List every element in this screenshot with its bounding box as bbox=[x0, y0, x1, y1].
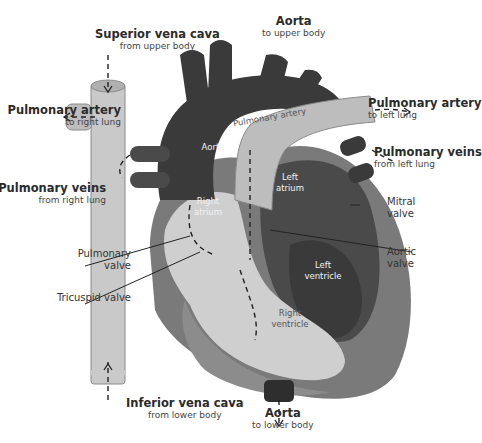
label-subtitle: to lower body bbox=[252, 420, 314, 430]
label-pulmonary-veins-right: Pulmonary veins from right lung bbox=[0, 182, 106, 206]
label-line1: Mitral bbox=[387, 196, 415, 208]
label-title: Superior vena cava bbox=[95, 28, 220, 41]
label-aortic-valve: Aortic valve bbox=[387, 246, 416, 269]
label-subtitle: to upper body bbox=[262, 28, 325, 38]
label-right-ventricle-2: ventricle bbox=[271, 319, 308, 329]
label-line2: valve bbox=[387, 208, 415, 220]
label-aorta-top: Aorta to upper body bbox=[262, 15, 325, 39]
vena-cava-tube bbox=[91, 84, 125, 384]
pulmonary-vein-right-2 bbox=[130, 172, 170, 188]
label-aorta-bottom: Aorta to lower body bbox=[252, 407, 314, 431]
label-line1: Tricuspid valve bbox=[57, 292, 131, 304]
label-title: Pulmonary veins bbox=[374, 146, 482, 159]
label-right-atrium-2: atrium bbox=[194, 207, 222, 217]
label-title: Aorta bbox=[252, 407, 314, 420]
pulmonary-vein-right-1 bbox=[130, 146, 170, 162]
label-line1: Pulmonary bbox=[78, 248, 131, 260]
label-title: Pulmonary veins bbox=[0, 182, 106, 195]
label-tricuspid-valve: Tricuspid valve bbox=[57, 292, 131, 304]
label-title: Pulmonary artery bbox=[8, 104, 121, 117]
label-title: Aorta bbox=[262, 15, 325, 28]
label-mitral-valve: Mitral valve bbox=[387, 196, 415, 219]
label-pulmonary-artery-left: Pulmonary artery to left lung bbox=[368, 97, 481, 121]
label-right-ventricle-1: Right bbox=[279, 308, 302, 318]
aorta-branch-1 bbox=[180, 50, 210, 110]
label-inferior-vena-cava: Inferior vena cava from lower body bbox=[126, 397, 244, 421]
label-pulmonary-veins-left: Pulmonary veins from left lung bbox=[374, 146, 482, 170]
label-subtitle: from lower body bbox=[126, 410, 244, 420]
label-subtitle: from upper body bbox=[95, 41, 220, 51]
label-superior-vena-cava: Superior vena cava from upper body bbox=[95, 28, 220, 52]
label-subtitle: to left lung bbox=[368, 110, 481, 120]
label-subtitle: from right lung bbox=[0, 195, 106, 205]
label-subtitle: from left lung bbox=[374, 159, 482, 169]
pulmonary-vein-left-1 bbox=[338, 134, 368, 158]
label-line2: valve bbox=[78, 260, 131, 272]
descending-aorta bbox=[264, 380, 294, 402]
label-right-atrium-1: Right bbox=[197, 196, 220, 206]
label-aorta-internal: Aorta bbox=[202, 142, 225, 152]
label-title: Pulmonary artery bbox=[368, 97, 481, 110]
label-title: Inferior vena cava bbox=[126, 397, 244, 410]
label-left-ventricle-1: Left bbox=[315, 260, 332, 270]
label-subtitle: to right lung bbox=[8, 117, 121, 127]
label-left-ventricle-2: ventricle bbox=[304, 271, 341, 281]
label-pulmonary-artery-right: Pulmonary artery to right lung bbox=[8, 104, 121, 128]
label-left-atrium-2: atrium bbox=[276, 183, 304, 193]
label-left-atrium-1: Left bbox=[282, 172, 299, 182]
label-line1: Aortic bbox=[387, 246, 416, 258]
label-pulmonary-valve: Pulmonary valve bbox=[78, 248, 131, 271]
label-line2: valve bbox=[387, 258, 416, 270]
